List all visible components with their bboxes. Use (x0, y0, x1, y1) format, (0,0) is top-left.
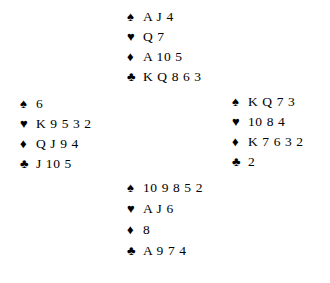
east-heart-cards: 10 8 4 (246, 115, 285, 129)
diamond-icon: ♦ (127, 50, 141, 63)
south-spade-row: ♠ 10 9 8 5 2 (127, 181, 203, 202)
west-spade-row: ♠ 6 (20, 97, 92, 117)
heart-icon: ♥ (20, 117, 34, 130)
hand-east: ♠ K Q 7 3 ♥ 10 8 4 ♦ K 7 6 3 2 ♣ 2 (232, 95, 304, 175)
bridge-hand-diagram: ♠ A J 4 ♥ Q 7 ♦ A 10 5 ♣ K Q 8 6 3 ♠ 6 ♥… (0, 0, 330, 283)
club-icon: ♣ (232, 155, 246, 168)
east-spade-row: ♠ K Q 7 3 (232, 95, 304, 115)
hand-north: ♠ A J 4 ♥ Q 7 ♦ A 10 5 ♣ K Q 8 6 3 (127, 10, 202, 90)
north-club-row: ♣ K Q 8 6 3 (127, 70, 202, 90)
west-club-row: ♣ J 10 5 (20, 157, 92, 177)
diamond-icon: ♦ (20, 137, 34, 150)
east-spade-cards: K Q 7 3 (246, 95, 295, 109)
south-spade-cards: 10 9 8 5 2 (141, 181, 203, 195)
east-diamond-cards: K 7 6 3 2 (246, 135, 304, 149)
south-heart-cards: A J 6 (141, 202, 174, 216)
north-heart-cards: Q 7 (141, 30, 165, 44)
diamond-icon: ♦ (127, 223, 141, 236)
west-diamond-cards: Q J 9 4 (34, 137, 79, 151)
club-icon: ♣ (127, 70, 141, 83)
south-club-cards: A 9 7 4 (141, 244, 187, 258)
heart-icon: ♥ (127, 30, 141, 43)
spade-icon: ♠ (232, 95, 246, 108)
diamond-icon: ♦ (232, 135, 246, 148)
south-diamond-row: ♦ 8 (127, 223, 203, 244)
east-diamond-row: ♦ K 7 6 3 2 (232, 135, 304, 155)
spade-icon: ♠ (127, 10, 141, 23)
north-spade-row: ♠ A J 4 (127, 10, 202, 30)
spade-icon: ♠ (20, 97, 34, 110)
south-diamond-cards: 8 (141, 223, 150, 237)
hand-south: ♠ 10 9 8 5 2 ♥ A J 6 ♦ 8 ♣ A 9 7 4 (127, 181, 203, 265)
east-club-cards: 2 (246, 155, 255, 169)
club-icon: ♣ (20, 157, 34, 170)
hand-west: ♠ 6 ♥ K 9 5 3 2 ♦ Q J 9 4 ♣ J 10 5 (20, 97, 92, 177)
south-heart-row: ♥ A J 6 (127, 202, 203, 223)
west-spade-cards: 6 (34, 97, 43, 111)
spade-icon: ♠ (127, 181, 141, 194)
west-diamond-row: ♦ Q J 9 4 (20, 137, 92, 157)
north-club-cards: K Q 8 6 3 (141, 70, 202, 84)
south-club-row: ♣ A 9 7 4 (127, 244, 203, 265)
east-club-row: ♣ 2 (232, 155, 304, 175)
heart-icon: ♥ (232, 115, 246, 128)
west-heart-cards: K 9 5 3 2 (34, 117, 92, 131)
club-icon: ♣ (127, 244, 141, 257)
west-heart-row: ♥ K 9 5 3 2 (20, 117, 92, 137)
north-heart-row: ♥ Q 7 (127, 30, 202, 50)
east-heart-row: ♥ 10 8 4 (232, 115, 304, 135)
west-club-cards: J 10 5 (34, 157, 72, 171)
north-diamond-row: ♦ A 10 5 (127, 50, 202, 70)
north-spade-cards: A J 4 (141, 10, 174, 24)
heart-icon: ♥ (127, 202, 141, 215)
north-diamond-cards: A 10 5 (141, 50, 183, 64)
